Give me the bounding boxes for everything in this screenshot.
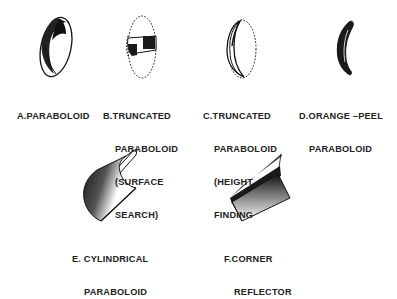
label-orange-peel-paraboloid: D.ORANGE –PEEL PARABOLOID xyxy=(299,89,383,177)
label-line: D.ORANGE –PEEL xyxy=(299,111,383,122)
label-line: C.TRUNCATED xyxy=(203,111,277,122)
label-line: B.TRUNCATED xyxy=(103,111,178,122)
truncated-paraboloid-height-finding-icon xyxy=(227,20,256,78)
label-truncated-paraboloid-surface-search: B.TRUNCATED PARABOLOID (SURFACE SEARCH) xyxy=(103,89,178,243)
orange-peel-paraboloid-icon xyxy=(337,21,353,75)
truncated-paraboloid-surface-search-icon xyxy=(127,16,156,78)
label-line: F.CORNER xyxy=(224,254,292,265)
label-line: (HEIGHT xyxy=(203,177,277,188)
label-line: A.PARABOLOID xyxy=(17,111,90,122)
label-line: PARABOLOID xyxy=(203,144,277,155)
label-line: REFLECTOR xyxy=(224,287,292,298)
label-line: PARABOLOID xyxy=(299,144,383,155)
label-line: PARABOLOID xyxy=(103,144,178,155)
label-corner-reflector: F.CORNER REFLECTOR xyxy=(224,232,292,299)
label-line: E. CYLINDRICAL xyxy=(72,254,148,265)
label-truncated-paraboloid-height-finding: C.TRUNCATED PARABOLOID (HEIGHT FINDING xyxy=(203,89,277,243)
label-cylindrical-paraboloid: E. CYLINDRICAL PARABOLOID xyxy=(72,232,148,299)
label-line: SEARCH) xyxy=(103,210,178,221)
label-line: PARABOLOID xyxy=(72,287,148,298)
label-line: (SURFACE xyxy=(103,177,178,188)
label-line: FINDING xyxy=(203,210,277,221)
label-paraboloid: A.PARABOLOID xyxy=(17,89,90,144)
paraboloid-icon xyxy=(35,15,77,80)
